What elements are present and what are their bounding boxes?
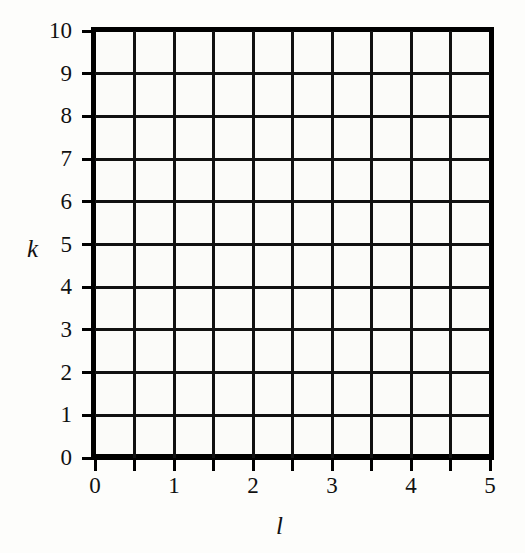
y-axis-tick [82, 115, 95, 118]
x-axis-tick [370, 458, 373, 471]
gridline-horizontal [95, 158, 490, 161]
x-axis-tick-label: 0 [75, 474, 115, 497]
x-axis-tick-label: 5 [470, 474, 510, 497]
gridline-horizontal [95, 328, 490, 331]
y-axis-tick-label: 10 [26, 19, 72, 42]
gridline-horizontal [95, 371, 490, 374]
x-axis-tick [173, 458, 176, 471]
x-axis-tick-label: 4 [391, 474, 431, 497]
y-axis-tick [82, 72, 95, 75]
y-axis-tick-label: 4 [26, 275, 72, 298]
x-axis-tick [252, 458, 255, 471]
x-axis-tick-label: 1 [154, 474, 194, 497]
y-axis-tick-label: 1 [26, 403, 72, 426]
y-axis-tick [82, 243, 95, 246]
y-axis-tick-label: 0 [26, 446, 72, 469]
y-axis-tick [82, 457, 95, 460]
x-axis-title: l [276, 513, 283, 538]
y-axis-tick-label: 9 [26, 62, 72, 85]
y-axis-tick [82, 371, 95, 374]
gridline-horizontal [95, 414, 490, 417]
y-axis-tick-label: 2 [26, 361, 72, 384]
y-axis-title: k [27, 236, 38, 261]
x-axis-tick [410, 458, 413, 471]
x-axis-tick [489, 458, 492, 471]
y-axis-tick-label: 3 [26, 318, 72, 341]
gridline-horizontal [95, 243, 490, 246]
x-axis-tick [331, 458, 334, 471]
x-axis-tick [94, 458, 97, 471]
x-axis-tick [449, 458, 452, 471]
x-axis-tick-label: 2 [233, 474, 273, 497]
y-axis-tick [82, 158, 95, 161]
gridline-horizontal [95, 200, 490, 203]
gridline-horizontal [95, 286, 490, 289]
y-axis-tick [82, 30, 95, 33]
y-axis-tick-label: 7 [26, 147, 72, 170]
gridline-horizontal [95, 72, 490, 75]
grid-chart-figure: 012345 012345678910 k l [0, 0, 525, 553]
y-axis-tick-label: 8 [26, 104, 72, 127]
y-axis-tick [82, 328, 95, 331]
y-axis-tick-label: 6 [26, 190, 72, 213]
x-axis-tick [291, 458, 294, 471]
x-axis-tick [212, 458, 215, 471]
gridline-horizontal [95, 115, 490, 118]
y-axis-tick [82, 414, 95, 417]
x-axis-tick-label: 3 [312, 474, 352, 497]
x-axis-tick [133, 458, 136, 471]
y-axis-tick [82, 286, 95, 289]
y-axis-tick [82, 200, 95, 203]
